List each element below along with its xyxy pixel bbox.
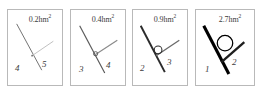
panel-4-right-ray-label: 2 [232,58,237,67]
panel-3-area-exponent: 2 [174,13,177,19]
panel-2-left-ray-label: 3 [79,65,84,74]
panel-3-area-label: 0.9hm2 [133,15,187,24]
panel-1-vertex-marker [31,55,33,57]
figure-strip: 0.2hm2 4 5 0.4hm2 3 4 0.9hm2 2 3 [0,0,262,96]
panel-1-right-ray-label: 5 [42,60,47,69]
panel-2-area-value: 0.4hm [92,15,112,24]
panel-2: 0.4hm2 3 4 [70,9,126,86]
panel-3-area-value: 0.9hm [154,15,174,24]
panel-3-right-ray-label: 3 [167,58,172,67]
panel-2-area-exponent: 2 [112,13,115,19]
panel-3-left-ray-label: 2 [140,64,145,73]
panel-4-area-value: 2.7hm [219,15,239,24]
panel-1-left-ray-label: 4 [15,64,20,73]
panel-1-area-exponent: 2 [49,13,52,19]
panel-1: 0.2hm2 4 5 [7,9,63,86]
panel-1-area-value: 0.2hm [29,15,49,24]
panel-3: 0.9hm2 2 3 [132,9,188,86]
panel-4-area-label: 2.7hm2 [196,15,254,24]
panel-1-left-ray [17,24,42,70]
panel-4-area-exponent: 2 [239,13,242,19]
panel-1-right-ray [32,41,53,55]
panel-2-area-label: 0.4hm2 [71,15,125,24]
panel-4: 2.7hm2 1 2 [195,9,255,86]
panel-3-vertex-marker [154,46,162,54]
panel-2-right-ray-label: 4 [106,61,111,70]
panel-1-area-label: 0.2hm2 [8,15,62,24]
panel-4-left-ray-label: 1 [205,65,210,74]
panel-2-right-ray [95,40,117,54]
panel-4-vertex-marker [217,35,232,50]
